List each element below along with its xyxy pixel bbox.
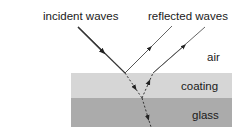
coating-label: coating [181,80,218,92]
incident-ray-arrow [78,27,103,52]
anti-reflection-coating-diagram: incident waves reflected waves air coati… [0,0,246,134]
reflected-waves-label: reflected waves [148,10,228,22]
air-label: air [207,51,220,63]
glass-label: glass [192,109,219,121]
reflected-ray-exit-arrow [153,46,184,73]
incident-waves-label: incident waves [43,10,119,22]
reflected-ray-surface-arrow [125,48,150,73]
